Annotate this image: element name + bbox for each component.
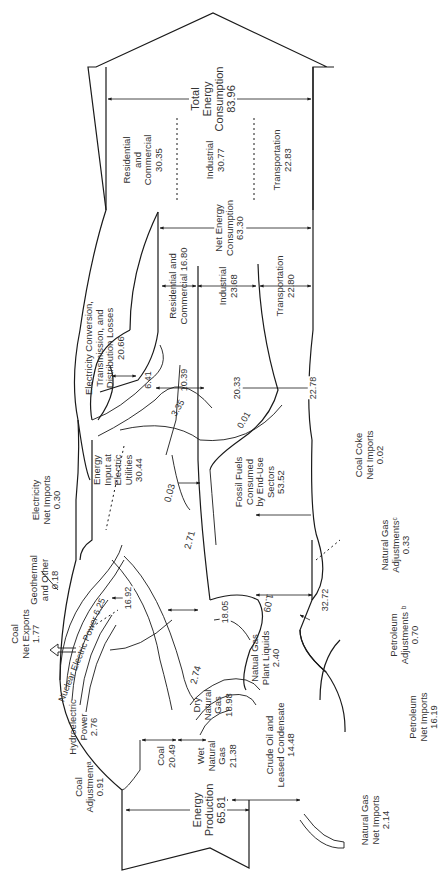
geothermal-label: Geothermal and Other 0.18 bbox=[29, 555, 61, 605]
fossil-fuels-label: Fossil Fuels Consumed by End-Use Sectors… bbox=[234, 455, 287, 510]
trans-total-label: Transportation 22.83 bbox=[272, 130, 293, 191]
total-consumption-label: Total Energy Consumption 83.96 bbox=[189, 65, 237, 134]
wet-gas-label: Wet Natural Gas 21.38 bbox=[196, 741, 238, 772]
ngl-label: Natual Gas Plant Liquids 2.40 bbox=[250, 631, 282, 685]
petroleum-imports-label: Petroleum Net Imports 16.19 bbox=[408, 692, 440, 741]
flow-32-72: 32.72 bbox=[320, 589, 331, 612]
natural-gas-adjustments-label: Natural Gas Adjustmentsᶜ 0.33 bbox=[380, 517, 412, 573]
electricity-imports-label: Electricity Net Imports 0.30 bbox=[31, 475, 63, 524]
flow-18-05: 18.05 bbox=[220, 601, 231, 624]
flow-22-78: 22.78 bbox=[308, 377, 319, 400]
dry-gas-label: Dry Natural Gas 18.98 bbox=[192, 690, 234, 721]
res-total-label: Residential and Commercial 30.35 bbox=[122, 135, 164, 186]
flow-1-09: 1.09 bbox=[261, 593, 275, 613]
petroleum-adjustments-label: Petroleum Adjustments ᵇ 0.70 bbox=[389, 606, 421, 665]
energy-production-label: Energy Production 65.81 bbox=[191, 782, 227, 839]
flow-10-39: 10.39 bbox=[179, 369, 190, 392]
flow-20-33: 20.33 bbox=[232, 377, 243, 400]
ind-total-label: Industrial 30.77 bbox=[205, 141, 226, 180]
flow-6-41: 6.41 bbox=[143, 371, 154, 389]
res-net-label: Residential and Commercial 16.80 bbox=[168, 247, 189, 324]
electric-utilities-input-label: Energy Input at Electric Utilities 30.44 bbox=[92, 454, 145, 486]
trans-net-label: Transportation 22.80 bbox=[275, 256, 296, 317]
net-consumption-label: Net Energy Consumption 63.30 bbox=[214, 198, 246, 258]
coal-exports-label: Coal Net Exports 1.77 bbox=[10, 609, 42, 659]
coal-coke-label: Coal Coke Net Imports 0.02 bbox=[354, 430, 386, 479]
flow-16-92: 16.92 bbox=[123, 587, 134, 610]
losses-label: Electricity Conversion, Transmission, an… bbox=[84, 301, 126, 395]
coal-adjustment-label: Coal Adjustmentᵃ 0.91 bbox=[74, 761, 106, 812]
crude-oil-label: Crude Oil and Leased Condensate 14.48 bbox=[265, 702, 297, 787]
coal-label: Coal 20.49 bbox=[156, 744, 177, 768]
consumption-outline-right bbox=[300, 67, 345, 732]
natural-gas-imports-label: Natural Gas Net Imports 2.14 bbox=[360, 795, 392, 846]
ind-net-label: Industrial 23.68 bbox=[218, 267, 239, 306]
hydro-label: Hydroelectric Power 2.76 bbox=[68, 699, 100, 754]
